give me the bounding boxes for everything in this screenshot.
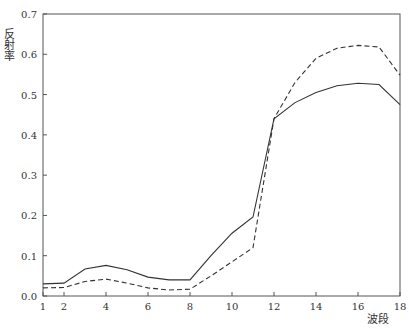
x-tick-label: 18 xyxy=(394,301,407,312)
plot-frame xyxy=(43,14,400,296)
y-tick-label: 0.2 xyxy=(21,210,37,221)
series-line-dashed xyxy=(43,45,400,290)
x-axis-label: 波段 xyxy=(367,312,389,326)
x-tick-label: 12 xyxy=(268,301,281,312)
y-tick-label: 0.0 xyxy=(21,291,37,302)
x-tick-label: 8 xyxy=(187,301,193,312)
y-tick-label: 0.5 xyxy=(21,90,37,101)
plot-area: 0.00.10.20.30.40.50.60.7124681012141618 xyxy=(21,9,406,312)
y-axis-label: 反射率 xyxy=(2,28,16,62)
y-tick-label: 0.6 xyxy=(21,49,37,60)
x-tick-label: 14 xyxy=(310,301,323,312)
line-chart: 0.00.10.20.30.40.50.60.7124681012141618 … xyxy=(0,0,409,329)
data-series xyxy=(43,45,400,290)
y-tick-label: 0.3 xyxy=(21,170,37,181)
y-tick-label: 0.4 xyxy=(21,130,37,141)
x-tick-label: 4 xyxy=(103,301,109,312)
y-tick-label: 0.7 xyxy=(21,9,37,20)
x-tick-label: 16 xyxy=(352,301,365,312)
x-tick-label: 6 xyxy=(145,301,151,312)
series-line-solid xyxy=(43,83,400,284)
x-tick-label: 1 xyxy=(40,301,46,312)
x-tick-label: 10 xyxy=(226,301,239,312)
y-tick-label: 0.1 xyxy=(21,251,37,262)
x-tick-label: 2 xyxy=(61,301,67,312)
